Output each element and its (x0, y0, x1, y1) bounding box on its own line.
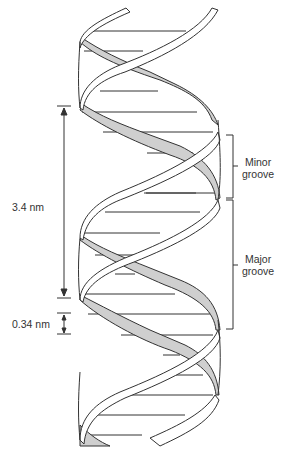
major-groove-label-line2: groove (242, 265, 274, 277)
base-pairs (81, 31, 218, 435)
major-groove-bracket (226, 200, 233, 329)
helix-drawing (0, 0, 287, 461)
groove-brackets (226, 135, 238, 329)
rise-label: 0.34 nm (12, 318, 50, 330)
rise-dimension (57, 313, 71, 334)
minor-groove-bracket (226, 135, 233, 198)
minor-groove-label: Minor groove (242, 156, 274, 180)
pitch-dimension (57, 106, 71, 298)
major-groove-label: Major groove (242, 253, 274, 277)
minor-groove-label-line1: Minor (242, 156, 274, 168)
pitch-label: 3.4 nm (12, 201, 44, 213)
dna-helix-diagram: 3.4 nm 0.34 nm Minor groove Major groove (0, 0, 287, 461)
major-groove-label-line1: Major (242, 253, 274, 265)
minor-groove-label-line2: groove (242, 168, 274, 180)
